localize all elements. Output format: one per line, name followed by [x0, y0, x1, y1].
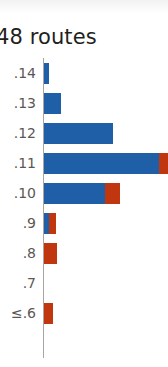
stacked-bar: [44, 303, 53, 324]
category-tick-label: .13: [4, 88, 40, 118]
category-tick-label: ≤.6: [4, 298, 40, 328]
stacked-bar: [44, 243, 57, 264]
bar-row: .7: [0, 268, 168, 298]
chart-title: 48 routes: [0, 22, 168, 52]
category-tick-label: .14: [4, 58, 40, 88]
category-tick-label: .10: [4, 178, 40, 208]
bar-segment-blue: [44, 153, 159, 174]
category-tick-label: .11: [4, 148, 40, 178]
bar-row: .13: [0, 88, 168, 118]
bar-row: ≤.6: [0, 298, 168, 328]
bar-row: .9: [0, 208, 168, 238]
bar-segment-red: [49, 213, 56, 234]
bar-segment-blue: [44, 93, 61, 114]
bar-row: .14: [0, 58, 168, 88]
plot-area: .14.13.12.11.10.9.8.7≤.6: [0, 55, 168, 367]
scan-edge-shading: [0, 0, 168, 14]
bar-row: .12: [0, 118, 168, 148]
stacked-bar: [44, 213, 56, 234]
bar-segment-blue: [44, 63, 49, 84]
category-tick-label: .12: [4, 118, 40, 148]
stacked-bar: [44, 63, 49, 84]
bar-row: .8: [0, 238, 168, 268]
bar-row: .11: [0, 148, 168, 178]
bar-segment-red: [44, 243, 57, 264]
bar-segment-red: [105, 183, 120, 204]
bar-row: .10: [0, 178, 168, 208]
chart-screenshot: 48 routes .14.13.12.11.10.9.8.7≤.6: [0, 0, 168, 367]
category-tick-label: .7: [4, 268, 40, 298]
bar-segment-blue: [44, 123, 113, 144]
stacked-bar: [44, 123, 113, 144]
bar-segment-red: [44, 303, 53, 324]
category-tick-label: .9: [4, 208, 40, 238]
category-tick-label: .8: [4, 238, 40, 268]
stacked-bar: [44, 153, 168, 174]
bar-segment-blue: [44, 183, 105, 204]
stacked-bar: [44, 183, 120, 204]
bar-segment-red: [159, 153, 168, 174]
stacked-bar: [44, 93, 61, 114]
